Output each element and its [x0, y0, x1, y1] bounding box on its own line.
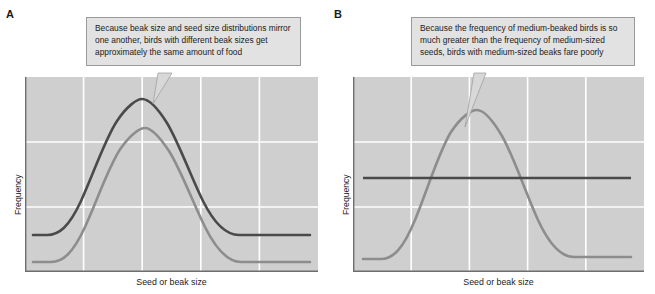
panel-b: B Because the frequency of medium-beaked…	[328, 0, 655, 294]
panel-a: A Because beak size and seed size distri…	[0, 0, 327, 294]
panel-b-callout: Because the frequency of medium-beaked b…	[411, 17, 635, 66]
panel-a-callout: Because beak size and seed size distribu…	[86, 17, 301, 66]
figure-container: A Because beak size and seed size distri…	[0, 0, 655, 294]
